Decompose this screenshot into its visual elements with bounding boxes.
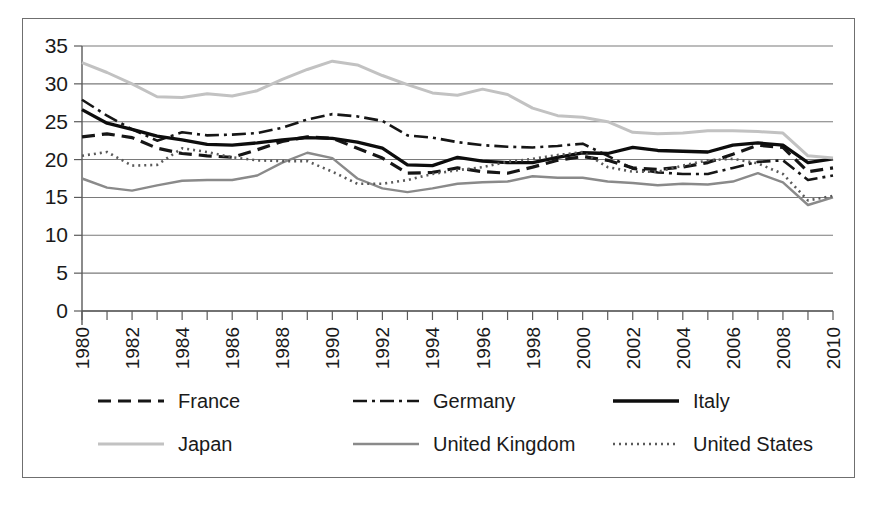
legend-item-united-kingdom[interactable]: United Kingdom bbox=[353, 433, 575, 455]
y-axis-ticks bbox=[74, 46, 82, 311]
series-line-italy bbox=[82, 110, 833, 166]
x-tick-label-1992: 1992 bbox=[372, 327, 393, 369]
y-axis-tick-labels: 05101520253035 bbox=[45, 34, 68, 322]
x-tick-label-1982: 1982 bbox=[122, 327, 143, 369]
y-tick-label-25: 25 bbox=[45, 110, 68, 133]
y-tick-label-35: 35 bbox=[45, 34, 68, 57]
legend-label-japan: Japan bbox=[178, 433, 233, 455]
legend-label-united-states: United States bbox=[693, 433, 813, 455]
x-tick-label-2008: 2008 bbox=[773, 327, 794, 369]
chart-figure-frame: 05101520253035 1980198219841986198819901… bbox=[22, 18, 855, 478]
legend-item-germany[interactable]: Germany bbox=[353, 390, 515, 412]
y-tick-label-10: 10 bbox=[45, 223, 68, 246]
y-tick-label-5: 5 bbox=[56, 261, 68, 284]
y-tick-label-0: 0 bbox=[56, 299, 68, 322]
line-chart: 05101520253035 1980198219841986198819901… bbox=[23, 19, 856, 479]
x-tick-label-1990: 1990 bbox=[322, 327, 343, 369]
legend-item-france[interactable]: France bbox=[98, 390, 240, 412]
legend-label-united-kingdom: United Kingdom bbox=[433, 433, 575, 455]
x-tick-label-1988: 1988 bbox=[272, 327, 293, 369]
legend-item-japan[interactable]: Japan bbox=[98, 433, 233, 455]
x-tick-label-1994: 1994 bbox=[422, 327, 443, 370]
x-tick-label-2004: 2004 bbox=[673, 327, 694, 370]
x-tick-label-1986: 1986 bbox=[222, 327, 243, 369]
x-axis-tick-labels: 1980198219841986198819901992199419961998… bbox=[72, 327, 844, 370]
y-tick-label-15: 15 bbox=[45, 185, 68, 208]
legend-label-germany: Germany bbox=[433, 390, 515, 412]
axis-lines bbox=[82, 46, 833, 325]
legend-item-united-states[interactable]: United States bbox=[613, 433, 813, 455]
x-tick-label-2006: 2006 bbox=[723, 327, 744, 369]
x-axis-ticks bbox=[82, 311, 833, 320]
chart-svg: 05101520253035 1980198219841986198819901… bbox=[23, 19, 856, 479]
x-tick-label-1996: 1996 bbox=[473, 327, 494, 369]
chart-legend: FranceGermanyItalyJapanUnited KingdomUni… bbox=[98, 390, 813, 455]
y-tick-label-20: 20 bbox=[45, 148, 68, 171]
legend-item-italy[interactable]: Italy bbox=[613, 390, 730, 412]
legend-label-france: France bbox=[178, 390, 240, 412]
x-tick-label-1984: 1984 bbox=[172, 327, 193, 370]
x-tick-label-2010: 2010 bbox=[823, 327, 844, 369]
y-tick-label-30: 30 bbox=[45, 72, 68, 95]
x-tick-label-1980: 1980 bbox=[72, 327, 93, 369]
x-tick-label-1998: 1998 bbox=[523, 327, 544, 369]
legend-label-italy: Italy bbox=[693, 390, 730, 412]
series-line-france bbox=[82, 134, 833, 173]
x-tick-label-2002: 2002 bbox=[623, 327, 644, 369]
gridlines bbox=[82, 46, 833, 311]
x-tick-label-2000: 2000 bbox=[573, 327, 594, 369]
data-series bbox=[82, 61, 833, 205]
